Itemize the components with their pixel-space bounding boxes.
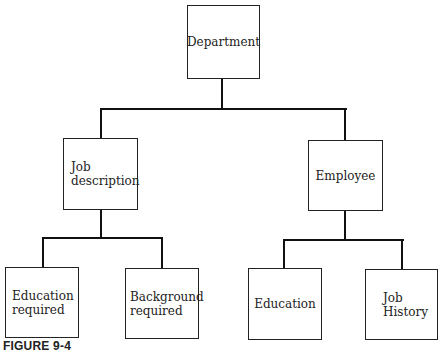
node-label: Job description [71, 160, 140, 188]
node-background-required: Background required [125, 268, 199, 339]
connector-level1-horizontal [100, 108, 347, 110]
connector-to-education [283, 239, 285, 269]
node-label: Employee [316, 169, 376, 183]
node-employee: Employee [308, 140, 383, 211]
node-job-description: Job description [63, 138, 138, 210]
connector-to-education-required [42, 237, 44, 268]
node-department: Department [187, 5, 260, 79]
connector-left-horizontal [42, 237, 163, 239]
connector-right-horizontal [283, 239, 404, 241]
connector-to-employee [344, 108, 346, 140]
connector-to-job-history [401, 239, 403, 270]
node-label: Background required [130, 290, 204, 318]
connector-to-job-description [100, 108, 102, 138]
figure-caption: FIGURE 9-4 [3, 339, 71, 353]
connector-to-background-required [161, 237, 163, 269]
connector-root-down [221, 78, 223, 110]
node-label: Education required [12, 289, 74, 317]
hierarchy-diagram: Department Job description Employee Educ… [0, 0, 442, 354]
node-label: Education [254, 297, 316, 311]
connector-job-description-down [100, 209, 102, 239]
node-label: Department [187, 35, 260, 49]
node-education: Education [248, 268, 322, 340]
node-education-required: Education required [5, 267, 79, 338]
node-label: Job History [383, 291, 428, 319]
node-job-history: Job History [365, 269, 438, 340]
connector-employee-down [344, 210, 346, 240]
